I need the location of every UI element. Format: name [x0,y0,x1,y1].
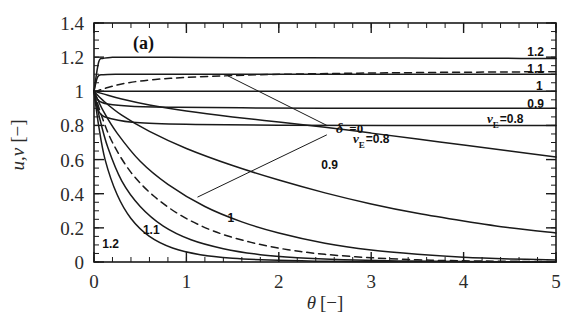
curve-label: 1 [536,79,543,93]
y-tick-label: 0 [75,252,85,273]
curve-label: 1 [227,211,234,225]
panel-tag: (a) [133,33,154,54]
curve-label: 1.1 [527,62,544,76]
y-tick-label: 0.2 [60,218,84,239]
x-tick-label: 3 [366,271,376,292]
curve-label: 0.9 [527,97,544,111]
y-tick-label: 1.4 [60,13,84,34]
figure-background [0,0,581,335]
x-tick-label: 5 [551,271,561,292]
x-axis-title: θ[−] [307,292,344,313]
y-tick-label: 1 [75,81,85,102]
figure-panel-a: δ=0 01234500.20.40.60.811.21.4 1.21.110.… [0,0,581,335]
y-tick-label: 0.6 [60,150,84,171]
x-tick-label: 0 [89,271,99,292]
chart-svg: δ=0 01234500.20.40.60.811.21.4 1.21.110.… [0,0,581,335]
y-tick-label: 0.4 [60,184,84,205]
delta-annotation: δ=0 [336,121,363,136]
curve-label: 1.2 [102,237,119,251]
y-tick-label: 0.8 [60,115,84,136]
x-tick-label: 4 [459,271,469,292]
x-tick-label: 2 [274,271,284,292]
curve-label: 1.2 [527,45,544,59]
curve-label: 1.1 [143,223,160,237]
curve-label: 0.9 [321,158,338,172]
x-tick-label: 1 [182,271,192,292]
y-tick-label: 1.2 [60,47,84,68]
